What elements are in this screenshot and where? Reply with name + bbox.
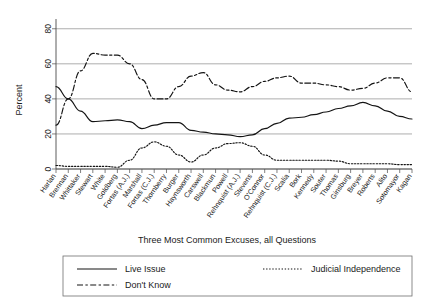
y-axis-tick-labels: 020406080 (43, 24, 53, 172)
data-series-group (56, 53, 412, 167)
legend-label-live-issue: Live Issue (125, 264, 166, 274)
gridlines (56, 29, 412, 169)
y-tick-label: 20 (43, 129, 53, 139)
x-axis-category-labels: HarlanBrennanWhittakerStewartWhiteGoldbe… (38, 171, 414, 219)
chart-figure: 020406080 HarlanBrennanWhittakerStewartW… (0, 0, 428, 306)
y-tick-label: 80 (43, 24, 53, 34)
series-line-live-issue (56, 87, 412, 137)
series-line-judicial-independence (56, 142, 412, 167)
axis-lines (56, 19, 412, 169)
y-axis-title: Percent (14, 84, 24, 116)
chart-legend: Live IssueJudicial IndependenceDon't Kno… (63, 256, 412, 296)
legend-label-don-t-know: Don't Know (125, 280, 171, 290)
chart-svg: 020406080 HarlanBrennanWhittakerStewartW… (0, 0, 428, 306)
y-tick-label: 60 (43, 59, 53, 69)
legend-border (63, 256, 412, 296)
legend-label-judicial-independence: Judicial Independence (311, 264, 401, 274)
x-axis-title: Three Most Common Excuses, all Questions (138, 235, 317, 245)
y-tick-label: 40 (43, 94, 53, 104)
y-tick-label: 0 (43, 166, 53, 171)
